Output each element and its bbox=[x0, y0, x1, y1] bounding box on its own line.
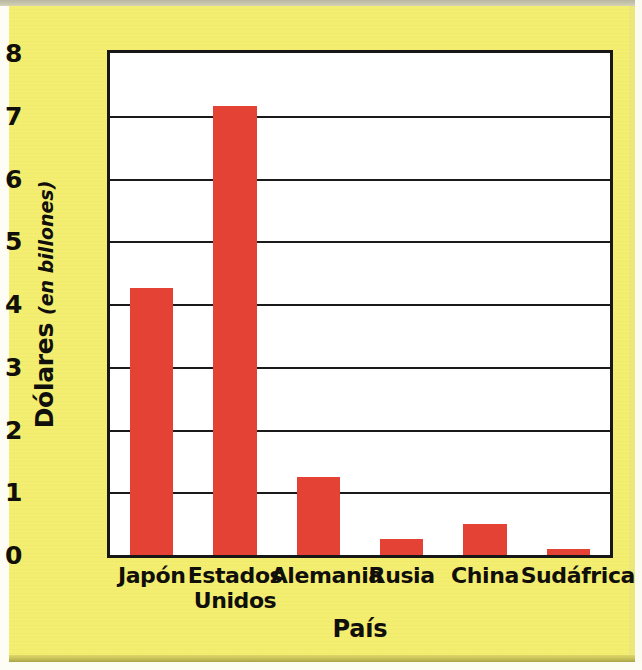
chart-page: Dólares (en billones) 012345678 JapónEst… bbox=[0, 0, 642, 670]
y-axis-title: Dólares (en billones) bbox=[22, 50, 68, 558]
x-tick-label-6: Sudáfrica bbox=[521, 563, 616, 588]
y-tick-label-4: 4 bbox=[0, 290, 22, 319]
bar-1 bbox=[130, 288, 173, 555]
y-tick-label-0: 0 bbox=[0, 541, 22, 570]
y-tick-label-5: 5 bbox=[0, 227, 22, 256]
x-tick-label-line: China bbox=[437, 563, 532, 588]
bar-series bbox=[110, 53, 610, 555]
bar-5 bbox=[463, 524, 506, 555]
bar-6 bbox=[547, 549, 590, 555]
plot-area bbox=[107, 50, 613, 558]
y-axis-title-sub: (en billones) bbox=[36, 180, 58, 314]
y-axis-title-main: Dólares bbox=[31, 322, 60, 427]
y-tick-label-7: 7 bbox=[0, 101, 22, 130]
x-tick-label-line: Japón bbox=[104, 563, 199, 588]
bar-2 bbox=[213, 106, 256, 555]
x-tick-label-line: Rusia bbox=[354, 563, 449, 588]
y-tick-label-3: 3 bbox=[0, 352, 22, 381]
y-tick-label-8: 8 bbox=[0, 39, 22, 68]
x-tick-label-line: Alemania bbox=[271, 563, 366, 588]
x-tick-label-line: Sudáfrica bbox=[521, 563, 616, 588]
x-tick-label-2: EstadosUnidos bbox=[187, 563, 282, 613]
x-axis-title: País bbox=[107, 615, 613, 643]
scan-right-edge bbox=[635, 0, 642, 670]
scan-bottom-edge bbox=[0, 662, 642, 670]
x-tick-label-3: Alemania bbox=[271, 563, 366, 588]
x-tick-label-4: Rusia bbox=[354, 563, 449, 588]
page-bottom-edge bbox=[9, 655, 635, 662]
y-tick-label-6: 6 bbox=[0, 164, 22, 193]
x-tick-label-5: China bbox=[437, 563, 532, 588]
y-tick-label-1: 1 bbox=[0, 478, 22, 507]
bar-3 bbox=[297, 477, 340, 555]
bar-4 bbox=[380, 539, 423, 555]
x-tick-label-line: Estados bbox=[187, 563, 282, 588]
x-tick-label-line: Unidos bbox=[187, 588, 282, 613]
x-tick-label-1: Japón bbox=[104, 563, 199, 588]
y-tick-label-2: 2 bbox=[0, 415, 22, 444]
